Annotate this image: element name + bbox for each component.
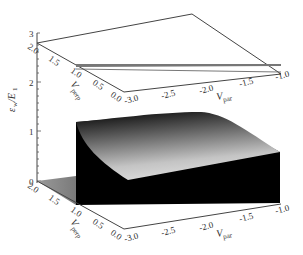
- svg-text:ε: ε: [6, 108, 17, 112]
- lower-y-axis-title: V perp: [66, 217, 88, 241]
- lower-y-tick-0.5: 0.5: [91, 216, 106, 231]
- svg-text:/E: /E: [6, 93, 17, 103]
- lower-x-tick-m2.0: -2.0: [198, 219, 215, 232]
- upper-y-axis-title: V perp: [66, 79, 88, 103]
- lower-panel: 2.0 1.5 1.0 0.5 0.0 V perp -3.0 -2.5 -2.…: [26, 112, 291, 244]
- svg-text:perp: perp: [69, 87, 83, 102]
- lower-y-tick-0.0: 0.0: [109, 227, 124, 242]
- svg-text:par: par: [222, 94, 233, 104]
- upper-y-tick-1.0: 1.0: [69, 65, 84, 80]
- z-tick-1: 1: [29, 127, 34, 137]
- upper-panel: 2.0 1.5 1.0 0.5 0.0 V perp -3.0 -2.5 -2.…: [26, 14, 291, 106]
- svg-text:1: 1: [11, 87, 19, 91]
- svg-text:par: par: [222, 231, 233, 241]
- upper-y-tick-0.5: 0.5: [91, 77, 106, 92]
- z-tick-2: 2: [29, 78, 34, 88]
- svg-text:perp: perp: [69, 225, 83, 240]
- z-tick-3: 3: [29, 29, 34, 39]
- upper-x-axis-title: V par: [215, 88, 233, 104]
- z-axis-title: ε w /E 1: [6, 87, 19, 112]
- lower-x-tick-m2.5: -2.5: [160, 224, 177, 237]
- lower-x-axis-title: V par: [215, 225, 233, 241]
- upper-x-tick-m2.5: -2.5: [160, 87, 177, 100]
- lower-x-tick-m1.5: -1.5: [238, 210, 255, 223]
- upper-x-tick-m2.0: -2.0: [198, 82, 215, 95]
- lower-x-tick-m3.0: -3.0: [123, 230, 140, 243]
- surface-plot: 3 2 1 0 ε w /E 1 2.0 1.5 1.0 0.5 0.0 V p…: [0, 0, 303, 255]
- upper-y-tick-0.0: 0.0: [109, 89, 124, 104]
- upper-x-tick-m3.0: -3.0: [123, 92, 140, 105]
